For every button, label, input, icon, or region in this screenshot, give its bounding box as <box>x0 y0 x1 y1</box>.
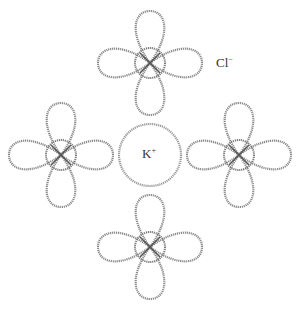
anion-charge: − <box>228 55 233 64</box>
anion-symbol: Cl <box>216 55 228 70</box>
potassium-ion-label: K+ <box>142 146 156 162</box>
chloride-orbital-left <box>9 103 113 207</box>
chloride-ion-label: Cl− <box>216 55 233 71</box>
cation-symbol: K <box>142 146 151 161</box>
cation-charge: + <box>151 146 156 155</box>
chloride-orbital-top <box>98 11 202 115</box>
chloride-orbital-bottom <box>98 195 202 299</box>
chloride-orbital-right <box>187 103 291 207</box>
